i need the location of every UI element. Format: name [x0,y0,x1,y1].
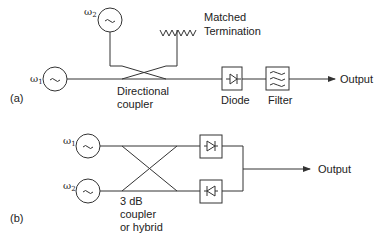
filter-label: Filter [268,94,293,106]
mixer-diagram: ω1 ω2 Matched Termination Directional co… [0,0,376,240]
termination-resistor [160,30,196,36]
output-label-b: Output [318,163,351,175]
source-omega1-b [76,134,100,158]
panel-a-label: (a) [10,92,23,104]
hybrid-label-3: or hybrid [120,221,163,233]
omega2-label-b: ω2 [63,180,76,193]
omega1-label-a: ω1 [30,73,43,86]
panel-b-label: (b) [10,212,23,224]
diode-box-b2 [200,180,222,203]
output-label-a: Output [340,73,373,85]
source-omega2-a [98,8,122,32]
panel-b [76,134,310,203]
hybrid-label-2: coupler [120,208,156,220]
diode-box-b1 [200,135,222,158]
diode-label: Diode [221,94,250,106]
source-omega1-a [43,67,67,91]
panel-a [43,8,335,91]
coupler-label-2: coupler [117,98,153,110]
omega2-label-a: ω2 [84,6,97,19]
source-omega2-b [76,179,100,203]
matched-label-1: Matched [204,11,246,23]
coupler-label-1: Directional [117,85,169,97]
hybrid-label-1: 3 dB [120,195,143,207]
matched-label-2: Termination [204,25,261,37]
omega1-label-b: ω1 [63,135,76,148]
